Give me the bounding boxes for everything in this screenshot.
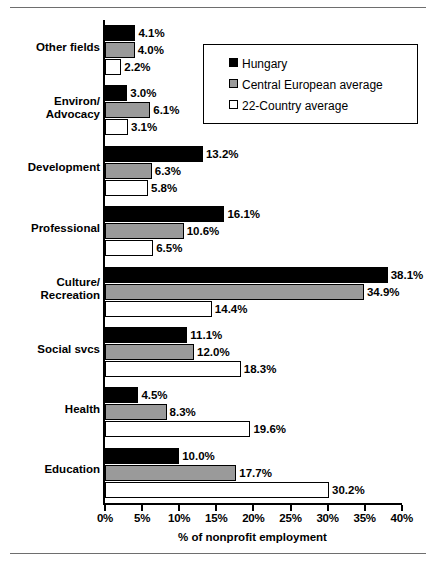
bar-row (105, 42, 135, 58)
bar-row (105, 361, 241, 377)
bar-value-label: 12.0% (194, 344, 230, 360)
bar[interactable] (105, 206, 224, 222)
bar-row (105, 344, 194, 360)
bar-value-label: 8.3% (167, 404, 196, 420)
bar-row (105, 301, 212, 317)
bar-row (105, 206, 224, 222)
bar-row (105, 482, 329, 498)
legend-item[interactable]: Central European average (229, 76, 383, 92)
bar-value-label: 3.0% (127, 85, 156, 101)
x-axis-tick (178, 505, 180, 511)
legend-swatch-icon (229, 100, 238, 109)
bar-group: Culture/Recreation38.1%34.9%14.4% (0, 262, 436, 322)
bar-row (105, 223, 184, 239)
bar-row (105, 327, 187, 343)
bar-value-label: 6.5% (153, 240, 182, 256)
bar[interactable] (105, 387, 138, 403)
x-axis-tick-label: 0% (85, 512, 125, 524)
x-axis-tick-label: 15% (196, 512, 236, 524)
bar-value-label: 19.6% (250, 421, 286, 437)
legend-item[interactable]: Hungary (229, 55, 287, 71)
bar-row (105, 448, 179, 464)
x-axis-tick (215, 505, 217, 511)
bar-row (105, 180, 148, 196)
bar-row (105, 465, 236, 481)
bar[interactable] (105, 223, 184, 239)
bar[interactable] (105, 267, 388, 283)
bar-value-label: 11.1% (187, 327, 222, 343)
bar-value-label: 10.6% (184, 223, 220, 239)
bar-group: Development13.2%6.3%5.8% (0, 141, 436, 201)
legend-item[interactable]: 22-Country average (229, 97, 348, 113)
bar[interactable] (105, 119, 128, 135)
bar-value-label: 5.8% (148, 180, 177, 196)
bar[interactable] (105, 85, 127, 101)
x-axis-tick (290, 505, 292, 511)
x-axis-tick-label: 20% (233, 512, 273, 524)
bar-value-label: 2.2% (121, 59, 150, 75)
bar-row (105, 85, 127, 101)
bar-value-label: 38.1% (388, 267, 424, 283)
bar[interactable] (105, 180, 148, 196)
bar[interactable] (105, 102, 150, 118)
bar-row (105, 119, 128, 135)
x-axis-tick (401, 505, 403, 511)
category-label: Health (0, 403, 100, 416)
bar-value-label: 34.9% (364, 284, 400, 300)
bar-value-label: 4.0% (135, 42, 164, 58)
x-axis-title: % of nonprofit employment (103, 531, 402, 543)
category-label: Education (0, 463, 100, 476)
bar[interactable] (105, 482, 329, 498)
bar[interactable] (105, 404, 167, 420)
bar-row (105, 102, 150, 118)
bar-row (105, 404, 167, 420)
bar-row (105, 146, 203, 162)
bar-value-label: 17.7% (236, 465, 272, 481)
bar-value-label: 4.1% (135, 25, 164, 41)
bar[interactable] (105, 59, 121, 75)
bar[interactable] (105, 421, 250, 437)
legend-swatch-icon (229, 79, 238, 88)
x-axis-tick (364, 505, 366, 511)
bar[interactable] (105, 344, 194, 360)
bar[interactable] (105, 240, 153, 256)
bar-value-label: 6.3% (152, 163, 181, 179)
bar-row (105, 59, 121, 75)
x-axis-tick-label: 35% (345, 512, 385, 524)
x-axis-tick (104, 505, 106, 511)
bar-value-label: 3.1% (128, 119, 157, 135)
bar-value-label: 30.2% (329, 482, 365, 498)
x-axis-tick (252, 505, 254, 511)
bar-row (105, 387, 138, 403)
category-label: Development (0, 161, 100, 174)
category-label: Environ/Advocacy (0, 95, 100, 121)
bar[interactable] (105, 163, 152, 179)
category-label: Other fields (0, 41, 100, 54)
bar[interactable] (105, 361, 241, 377)
x-axis-tick (327, 505, 329, 511)
bar-value-label: 6.1% (150, 102, 179, 118)
bar-group: Education10.0%17.7%30.2% (0, 443, 436, 503)
bar[interactable] (105, 448, 179, 464)
bar[interactable] (105, 465, 236, 481)
bar[interactable] (105, 301, 212, 317)
x-axis-tick-label: 30% (308, 512, 348, 524)
bar-value-label: 13.2% (203, 146, 239, 162)
bar-row (105, 240, 153, 256)
bar-row (105, 267, 388, 283)
bar[interactable] (105, 25, 135, 41)
bar-value-label: 18.3% (241, 361, 277, 377)
bar-value-label: 4.5% (138, 387, 167, 403)
bar-row (105, 163, 152, 179)
x-axis-tick-label: 10% (159, 512, 199, 524)
bar-value-label: 14.4% (212, 301, 248, 317)
bar-row (105, 421, 250, 437)
bar-row (105, 25, 135, 41)
bar-row (105, 284, 364, 300)
category-label: Social svcs (0, 343, 100, 356)
legend-label: Hungary (242, 57, 287, 71)
bar[interactable] (105, 327, 187, 343)
bar[interactable] (105, 42, 135, 58)
bar[interactable] (105, 146, 203, 162)
bar[interactable] (105, 284, 364, 300)
